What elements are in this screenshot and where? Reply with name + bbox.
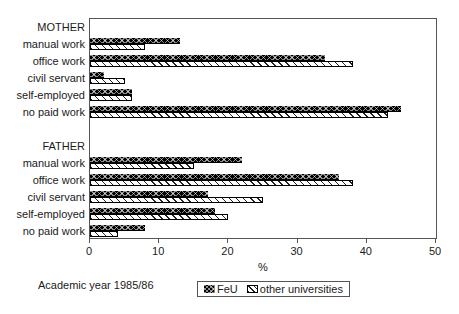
x-tick-40 bbox=[366, 239, 367, 243]
chart-caption: Academic year 1985/86 bbox=[38, 279, 154, 292]
x-axis-title: % bbox=[89, 261, 437, 273]
bar-other-universities-mother-no-paid-work bbox=[90, 112, 388, 118]
x-tick-50 bbox=[435, 239, 436, 243]
category-label-mother-manual-work: manual work bbox=[0, 38, 85, 50]
bar-other-universities-mother-manual-work bbox=[90, 44, 145, 50]
bar-other-universities-father-office-work bbox=[90, 180, 353, 186]
x-tick-0 bbox=[89, 239, 90, 243]
legend-item-feu: FeU bbox=[204, 282, 238, 296]
x-tick-20 bbox=[227, 239, 228, 243]
category-label-mother-office-work: office work bbox=[0, 55, 85, 67]
bar-other-universities-father-civil-servant bbox=[90, 197, 263, 203]
bar-chart-figure: MOTHERmanual workoffice workcivil servan… bbox=[0, 0, 459, 314]
category-label-mother-self-employed: self-employed bbox=[0, 89, 85, 101]
x-tick-30 bbox=[297, 239, 298, 243]
bar-other-universities-father-no-paid-work bbox=[90, 231, 118, 237]
category-label-father-civil-servant: civil servant bbox=[0, 191, 85, 203]
bar-other-universities-mother-office-work bbox=[90, 61, 353, 67]
bar-other-universities-father-manual-work bbox=[90, 163, 194, 169]
category-label-mother-no-paid-work: no paid work bbox=[0, 106, 85, 118]
category-label-father-manual-work: manual work bbox=[0, 157, 85, 169]
x-tick-label-30: 30 bbox=[285, 245, 309, 257]
category-label-father-no-paid-work: no paid work bbox=[0, 225, 85, 237]
x-tick-label-20: 20 bbox=[215, 245, 239, 257]
legend-box: FeU other universities bbox=[197, 281, 350, 297]
x-tick-label-10: 10 bbox=[146, 245, 170, 257]
category-label-father-self-employed: self-employed bbox=[0, 208, 85, 220]
x-tick-label-40: 40 bbox=[354, 245, 378, 257]
legend-label-feu: FeU bbox=[217, 282, 238, 296]
bar-other-universities-mother-civil-servant bbox=[90, 78, 125, 84]
group-label-father-father: FATHER bbox=[0, 140, 85, 152]
x-tick-label-50: 50 bbox=[423, 245, 447, 257]
legend-label-other-universities: other universities bbox=[260, 282, 343, 296]
x-tick-label-0: 0 bbox=[77, 245, 101, 257]
plot-area bbox=[89, 18, 437, 239]
group-label-mother-mother: MOTHER bbox=[0, 21, 85, 33]
bar-other-universities-mother-self-employed bbox=[90, 95, 132, 101]
other-universities-swatch-icon bbox=[247, 285, 258, 293]
feu-swatch-icon bbox=[204, 285, 215, 293]
legend-item-other-universities: other universities bbox=[247, 282, 343, 296]
bar-other-universities-father-self-employed bbox=[90, 214, 228, 220]
x-tick-10 bbox=[158, 239, 159, 243]
category-label-mother-civil-servant: civil servant bbox=[0, 72, 85, 84]
category-label-father-office-work: office work bbox=[0, 174, 85, 186]
